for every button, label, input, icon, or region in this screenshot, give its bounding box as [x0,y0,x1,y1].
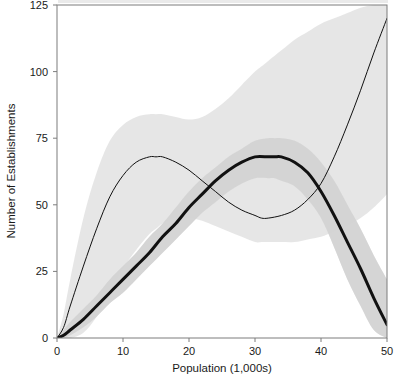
x-tick-label: 10 [117,345,129,357]
chart-container: 010203040500255075100125 Population (1,0… [0,0,412,378]
x-axis-title: Population (1,000s) [172,362,272,374]
y-tick-label: 100 [30,66,48,78]
x-tick-label: 40 [315,345,327,357]
chart-title-clipped [58,0,388,3]
x-tick-label: 0 [54,345,60,357]
x-tick-label: 30 [249,345,261,357]
y-axis-title: Number of Establishments [5,103,17,238]
y-tick-label: 50 [36,199,48,211]
y-tick-label: 25 [36,265,48,277]
x-tick-label: 20 [183,345,195,357]
y-tick-label: 0 [42,332,48,344]
x-tick-label: 50 [381,345,393,357]
y-tick-label: 75 [36,132,48,144]
line-chart: 010203040500255075100125 Population (1,0… [0,0,412,378]
y-tick-label: 125 [30,0,48,11]
